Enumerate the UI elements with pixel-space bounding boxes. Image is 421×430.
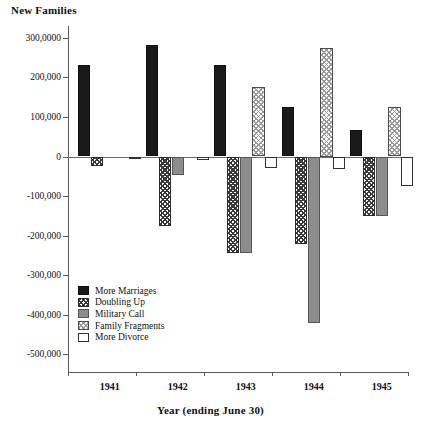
y-tick-label: -500,000 — [27, 349, 61, 359]
bar-1943-family-fragments — [252, 87, 264, 156]
y-tick — [63, 315, 68, 316]
x-tick — [204, 372, 205, 376]
bar-1944-doubling-up — [295, 157, 307, 245]
x-category-label-1943: 1943 — [236, 381, 256, 392]
bar-1943-more-marriages — [214, 65, 226, 157]
bar-1941-more-marriages — [78, 65, 90, 157]
bar-1945-more-marriages — [350, 130, 362, 157]
legend-label: Military Call — [95, 309, 144, 319]
bar-1944-family-fragments — [320, 48, 332, 157]
legend-swatch-icon — [78, 286, 89, 295]
x-tick — [408, 372, 409, 376]
y-tick-label: 200,000 — [30, 72, 61, 82]
bar-1944-military-call — [308, 157, 320, 323]
y-tick — [63, 236, 68, 237]
y-tick — [63, 38, 68, 39]
legend-label: Doubling Up — [95, 297, 145, 307]
y-tick — [63, 354, 68, 355]
y-tick-label: -300,000 — [27, 270, 61, 280]
x-category-label-1942: 1942 — [168, 381, 188, 392]
bar-1945-doubling-up — [363, 157, 375, 216]
x-category-label-1941: 1941 — [100, 381, 120, 392]
bar-1942-more-divorce — [197, 157, 209, 160]
bar-1943-more-divorce — [265, 157, 277, 169]
x-tick — [136, 372, 137, 376]
x-axis-title: Year (ending June 30) — [0, 404, 421, 416]
bar-1943-military-call — [240, 157, 252, 254]
legend-item-family-fragments[interactable]: Family Fragments — [78, 320, 164, 332]
legend-swatch-icon — [78, 298, 89, 307]
bar-1945-family-fragments — [388, 107, 400, 156]
bar-1943-doubling-up — [227, 157, 239, 254]
legend-item-more-divorce[interactable]: More Divorce — [78, 331, 164, 343]
x-tick — [68, 372, 69, 376]
bar-1944-more-marriages — [282, 107, 294, 156]
y-tick-label: -200,000 — [27, 231, 61, 241]
x-category-label-1945: 1945 — [372, 381, 392, 392]
y-tick-label: 0 — [56, 152, 61, 162]
y-tick — [63, 117, 68, 118]
x-tick — [340, 372, 341, 376]
bar-1944-more-divorce — [333, 157, 345, 170]
chart-legend: More MarriagesDoubling UpMilitary CallFa… — [78, 285, 164, 343]
bar-1942-more-marriages — [146, 45, 158, 157]
legend-swatch-icon — [78, 309, 89, 318]
y-tick-label: -100,000 — [27, 191, 61, 201]
y-tick — [63, 196, 68, 197]
bar-1945-military-call — [376, 157, 388, 216]
bar-1942-doubling-up — [159, 157, 171, 226]
y-tick-label: 100,000 — [30, 112, 61, 122]
legend-swatch-icon — [78, 321, 89, 330]
chart-container: New Families 300,0000200,000100,0000-100… — [0, 0, 421, 430]
x-category-label-1944: 1944 — [304, 381, 324, 392]
y-tick-label: 300,0000 — [25, 33, 61, 43]
y-tick — [63, 275, 68, 276]
x-tick — [272, 372, 273, 376]
bar-1941-doubling-up — [91, 157, 103, 167]
legend-label: More Marriages — [95, 286, 156, 296]
y-axis-line — [68, 26, 69, 374]
legend-label: Family Fragments — [95, 321, 164, 331]
bar-1942-military-call — [172, 157, 184, 176]
legend-label: More Divorce — [95, 332, 149, 342]
y-tick-label: -400,000 — [27, 310, 61, 320]
bar-1941-more-divorce — [129, 157, 141, 159]
legend-swatch-icon — [78, 333, 89, 342]
y-tick — [63, 77, 68, 78]
legend-item-more-marriages[interactable]: More Marriages — [78, 285, 164, 297]
x-axis-line — [68, 372, 408, 373]
legend-item-doubling-up[interactable]: Doubling Up — [78, 297, 164, 309]
y-axis-title: New Families — [11, 4, 77, 16]
legend-item-military-call[interactable]: Military Call — [78, 308, 164, 320]
bar-1945-more-divorce — [401, 157, 413, 187]
